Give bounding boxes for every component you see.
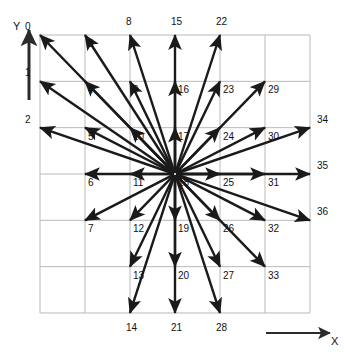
point-label-3: 3 bbox=[88, 39, 94, 49]
point-label-16: 16 bbox=[178, 85, 189, 95]
point-label-1: 1 bbox=[25, 68, 31, 78]
direction-arrow-13 bbox=[130, 175, 174, 266]
point-label-11: 11 bbox=[133, 178, 143, 188]
direction-arrow-30 bbox=[176, 128, 265, 174]
point-label-12: 12 bbox=[133, 224, 144, 234]
direction-arrow-27 bbox=[176, 175, 220, 266]
point-label-28: 28 bbox=[216, 323, 227, 333]
point-label-24: 24 bbox=[223, 132, 234, 142]
point-label-35: 35 bbox=[317, 161, 328, 171]
point-label-21: 21 bbox=[171, 323, 182, 333]
point-label-23: 23 bbox=[223, 85, 234, 95]
point-label-34: 34 bbox=[317, 115, 328, 125]
point-label-31: 31 bbox=[268, 178, 279, 188]
point-label-19: 19 bbox=[178, 224, 189, 234]
point-label-22: 22 bbox=[216, 17, 227, 27]
point-label-33: 33 bbox=[268, 271, 279, 281]
point-label-8: 8 bbox=[126, 17, 132, 27]
point-label-18: 18 bbox=[178, 178, 189, 188]
point-label-10: 10 bbox=[133, 132, 144, 142]
direction-arrow-7 bbox=[85, 175, 174, 221]
point-label-30: 30 bbox=[268, 132, 279, 142]
vector-star-diagram bbox=[0, 0, 344, 355]
point-label-36: 36 bbox=[317, 207, 328, 217]
point-label-29: 29 bbox=[268, 85, 279, 95]
point-label-15: 15 bbox=[171, 17, 182, 27]
point-label-25: 25 bbox=[223, 178, 234, 188]
point-label-26: 26 bbox=[223, 224, 234, 234]
y-axis-label: Y bbox=[13, 21, 20, 32]
point-label-5: 5 bbox=[88, 132, 94, 142]
point-label-20: 20 bbox=[178, 271, 189, 281]
direction-arrow-32 bbox=[176, 175, 265, 221]
point-label-27: 27 bbox=[223, 271, 234, 281]
point-label-6: 6 bbox=[88, 178, 94, 188]
point-label-0: 0 bbox=[25, 22, 31, 32]
point-label-4: 4 bbox=[88, 85, 94, 95]
point-label-7: 7 bbox=[88, 224, 94, 234]
point-label-9: 9 bbox=[133, 85, 139, 95]
point-label-14: 14 bbox=[126, 323, 137, 333]
x-axis-label: X bbox=[331, 336, 338, 347]
point-label-2: 2 bbox=[25, 115, 31, 125]
point-label-17: 17 bbox=[178, 132, 189, 142]
figure-canvas: 0123456789101112131415161718192021222324… bbox=[0, 0, 344, 355]
point-label-13: 13 bbox=[133, 271, 144, 281]
point-label-32: 32 bbox=[268, 224, 279, 234]
